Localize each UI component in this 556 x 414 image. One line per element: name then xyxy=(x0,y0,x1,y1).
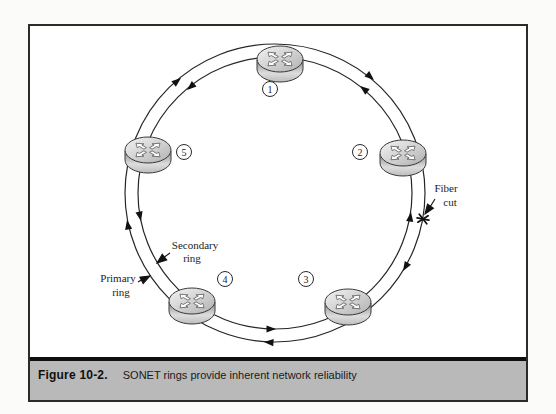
router-node-3 xyxy=(325,289,371,325)
figure-label: Figure 10-2. xyxy=(38,368,108,382)
router-node-5 xyxy=(125,137,171,173)
secondary-ring-label: Secondary ring xyxy=(172,239,219,264)
sonet-ring-svg: 1 2 3 4 5 xyxy=(30,26,526,357)
node-number-1: 1 xyxy=(263,82,278,97)
router-node-1 xyxy=(257,46,303,82)
fiber-cut-label: Fiber cut xyxy=(434,182,458,208)
svg-text:Secondary: Secondary xyxy=(172,239,219,251)
node-number-4: 4 xyxy=(218,272,233,287)
svg-text:2: 2 xyxy=(358,147,363,158)
node-number-2: 2 xyxy=(353,145,368,160)
svg-text:ring: ring xyxy=(183,252,201,264)
svg-text:1: 1 xyxy=(268,84,273,95)
router-node-4 xyxy=(169,288,215,324)
svg-text:Primary: Primary xyxy=(100,272,136,284)
secondary-ring-path xyxy=(138,57,412,329)
svg-text:5: 5 xyxy=(182,147,187,158)
svg-text:4: 4 xyxy=(223,274,228,285)
figure-frame: 1 2 3 4 5 xyxy=(28,24,528,402)
primary-ring-label: Primary ring xyxy=(100,272,136,298)
router-node-2 xyxy=(380,140,426,176)
svg-text:ring: ring xyxy=(112,286,130,298)
node-number-5: 5 xyxy=(177,145,192,160)
svg-text:3: 3 xyxy=(304,274,309,285)
figure-caption: SONET rings provide inherent network rel… xyxy=(123,369,357,381)
svg-text:Fiber: Fiber xyxy=(434,182,458,194)
secondary-ring-pointer xyxy=(155,253,170,266)
figure-caption-bar: Figure 10-2. SONET rings provide inheren… xyxy=(30,357,526,400)
svg-text:cut: cut xyxy=(443,196,456,208)
sonet-ring-diagram: 1 2 3 4 5 xyxy=(30,26,526,357)
node-number-3: 3 xyxy=(299,272,314,287)
